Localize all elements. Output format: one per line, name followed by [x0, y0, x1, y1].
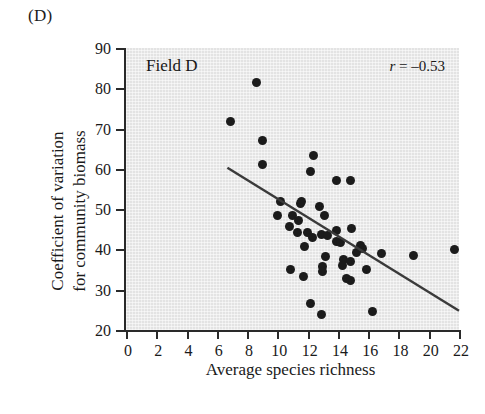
data-point	[323, 231, 332, 240]
data-point	[352, 248, 361, 257]
data-point	[320, 211, 329, 220]
data-point	[300, 242, 309, 251]
data-point	[293, 228, 302, 237]
field-label: Field D	[146, 56, 197, 76]
data-point	[258, 160, 267, 169]
x-tick: 2	[156, 330, 158, 339]
data-point	[347, 224, 356, 233]
plot-area: Field D r = –0.53 2030405060708090 02468…	[124, 48, 459, 332]
data-point	[306, 167, 315, 176]
data-point	[346, 276, 355, 285]
data-point	[362, 265, 371, 274]
data-point	[308, 233, 317, 242]
data-point	[252, 78, 261, 87]
data-point	[299, 272, 308, 281]
x-tick-label: 8	[245, 341, 253, 361]
x-tick-label: 4	[185, 341, 193, 361]
data-point	[294, 216, 303, 225]
data-point	[409, 251, 418, 260]
panel-letter: (D)	[28, 6, 53, 26]
x-tick: 0	[126, 330, 128, 339]
y-tick: 90	[116, 48, 125, 50]
data-point	[318, 267, 327, 276]
y-tick: 30	[116, 290, 125, 292]
x-tick: 6	[217, 330, 219, 339]
y-axis-title: Coefficient of variation for community b…	[47, 76, 91, 346]
data-point	[258, 136, 267, 145]
y-tick-label: 60	[95, 160, 111, 180]
figure-panel-d: (D) Field D r = –0.53 2030405060708090 0…	[0, 0, 485, 414]
data-point	[377, 249, 386, 258]
x-tick-label: 22	[453, 341, 469, 361]
data-point	[315, 202, 324, 211]
data-point	[306, 299, 315, 308]
y-tick: 80	[116, 88, 125, 90]
data-point	[286, 265, 295, 274]
x-tick-label: 14	[332, 341, 348, 361]
data-point	[285, 222, 294, 231]
data-point	[276, 197, 285, 206]
y-tick: 20	[116, 330, 125, 332]
x-tick-label: 12	[302, 341, 318, 361]
plot-background-texture	[126, 48, 459, 330]
correlation-label: r = –0.53	[389, 58, 445, 75]
y-tick-label: 80	[95, 79, 111, 99]
x-tick-label: 18	[392, 341, 408, 361]
y-tick-label: 90	[95, 39, 111, 59]
y-tick-label: 50	[95, 200, 111, 220]
data-point	[332, 176, 341, 185]
y-axis-title-line-1: Coefficient of variation	[47, 76, 69, 346]
data-point	[450, 245, 459, 254]
y-tick: 40	[116, 249, 125, 251]
x-tick: 10	[277, 330, 279, 339]
x-tick-label: 0	[124, 341, 132, 361]
y-tick: 70	[116, 129, 125, 131]
data-point	[317, 310, 326, 319]
y-axis-title-line-2: for community biomass	[69, 76, 91, 346]
data-point	[273, 211, 282, 220]
data-point	[336, 238, 345, 247]
data-point	[297, 197, 306, 206]
y-tick: 50	[116, 209, 125, 211]
data-point	[226, 117, 235, 126]
x-tick-label: 20	[423, 341, 439, 361]
data-point	[321, 252, 330, 261]
trend-line	[126, 48, 459, 330]
y-tick-label: 70	[95, 120, 111, 140]
data-point	[346, 176, 355, 185]
x-tick: 20	[429, 330, 431, 339]
y-tick-label: 30	[95, 281, 111, 301]
x-tick: 8	[247, 330, 249, 339]
x-axis-title: Average species richness	[124, 360, 457, 380]
y-tick: 60	[116, 169, 125, 171]
x-tick-label: 16	[362, 341, 378, 361]
x-tick: 14	[338, 330, 340, 339]
data-point	[332, 226, 341, 235]
data-point	[338, 261, 347, 270]
x-tick-label: 6	[215, 341, 223, 361]
x-tick-label: 10	[271, 341, 287, 361]
x-tick-label: 2	[154, 341, 162, 361]
x-tick: 12	[308, 330, 310, 339]
data-point	[309, 151, 318, 160]
x-tick: 18	[398, 330, 400, 339]
x-tick: 4	[187, 330, 189, 339]
correlation-value: = –0.53	[395, 58, 445, 74]
x-tick: 16	[368, 330, 370, 339]
y-tick-label: 40	[95, 240, 111, 260]
data-point	[368, 307, 377, 316]
x-tick: 22	[459, 330, 461, 339]
y-tick-label: 20	[95, 321, 111, 341]
